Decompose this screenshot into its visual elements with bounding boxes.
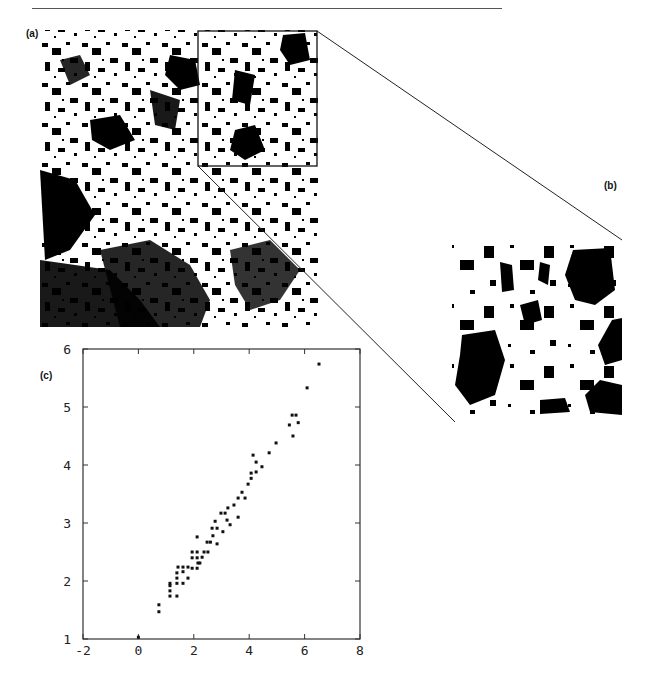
svg-text:3: 3 — [63, 516, 71, 531]
panel-b-image — [452, 245, 622, 415]
panel-label-a: (a) — [26, 28, 38, 39]
axis-ticks — [83, 349, 360, 639]
svg-text:6: 6 — [63, 342, 71, 357]
axis-tick-labels: -202468123456 — [63, 342, 364, 658]
svg-text:4: 4 — [245, 643, 253, 658]
svg-text:1: 1 — [63, 632, 71, 647]
svg-text:8: 8 — [356, 643, 364, 658]
svg-text:2: 2 — [63, 574, 71, 589]
panel-label-c: (c) — [40, 370, 52, 381]
svg-text:0: 0 — [134, 643, 142, 658]
svg-text:-2: -2 — [75, 643, 91, 658]
svg-text:4: 4 — [63, 458, 71, 473]
figure-canvas: -202468123456 — [0, 0, 649, 683]
zoom-connector-top — [317, 31, 622, 240]
plot-frame — [83, 349, 360, 639]
svg-text:6: 6 — [301, 643, 309, 658]
svg-text:2: 2 — [190, 643, 198, 658]
data-points — [137, 363, 321, 639]
svg-text:5: 5 — [63, 400, 71, 415]
panel-label-b: (b) — [604, 180, 617, 191]
panel-a-image — [40, 30, 318, 327]
scatter-plot: -202468123456 — [63, 342, 364, 658]
